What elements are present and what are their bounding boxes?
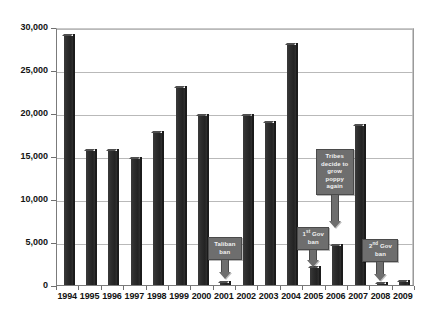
bar[interactable] xyxy=(176,88,185,285)
bar-slot xyxy=(393,282,415,285)
bar[interactable] xyxy=(287,45,296,285)
bar-face xyxy=(153,133,162,285)
x-axis-tick-mark xyxy=(190,286,191,290)
bar-face xyxy=(176,88,185,285)
bar-face xyxy=(332,246,341,285)
bar-slot xyxy=(57,36,79,285)
y-axis-tick-label: 30,000 xyxy=(0,22,48,32)
bar-slot xyxy=(169,88,191,285)
bar-side-shade xyxy=(73,34,75,285)
bar-top-shade xyxy=(196,114,207,116)
bar-side-shade xyxy=(162,131,164,285)
x-axis-tick-label: 2004 xyxy=(280,291,302,301)
x-axis-tick-mark xyxy=(325,286,326,290)
bar-side-shade xyxy=(117,149,119,285)
bar-slot xyxy=(191,116,213,285)
bar-face xyxy=(399,282,408,285)
x-axis-tick-mark xyxy=(369,286,370,290)
bar[interactable] xyxy=(153,133,162,285)
bar[interactable] xyxy=(64,36,73,285)
bar-slot xyxy=(102,151,124,285)
bar[interactable] xyxy=(220,283,229,285)
bar-slot xyxy=(236,116,258,285)
bar-slot xyxy=(303,268,325,285)
x-axis-tick-label: 1998 xyxy=(146,291,168,301)
bar-side-shade xyxy=(229,281,231,285)
bar-side-shade xyxy=(95,149,97,285)
bar-slot xyxy=(214,283,236,285)
bar-slot xyxy=(370,284,392,286)
bar-side-shade xyxy=(341,244,343,285)
bar-face xyxy=(355,126,364,285)
plot-area: TalibanbanTribesdecide togrowpoppyagain1… xyxy=(56,28,414,286)
x-axis-tick-mark xyxy=(213,286,214,290)
bar-face xyxy=(108,151,117,285)
bar-face xyxy=(86,151,95,285)
bar-side-shade xyxy=(207,114,209,285)
x-axis-tick-mark xyxy=(392,286,393,290)
bar-slot xyxy=(348,126,370,285)
x-axis-tick-label: 1997 xyxy=(123,291,145,301)
y-axis-tick-label: 15,000 xyxy=(0,151,48,161)
bar-side-shade xyxy=(364,124,366,285)
bar-side-shade xyxy=(185,86,187,285)
bar-side-shade xyxy=(386,282,388,286)
x-axis-tick-mark xyxy=(302,286,303,290)
bar-face xyxy=(310,268,319,285)
bar[interactable] xyxy=(265,123,274,285)
x-axis-tick-mark xyxy=(235,286,236,290)
x-axis-tick-mark xyxy=(414,286,415,290)
x-axis-tick-label: 2008 xyxy=(369,291,391,301)
bar-face xyxy=(198,116,207,285)
bar[interactable] xyxy=(86,151,95,285)
bar-top-shade xyxy=(308,266,319,268)
x-axis-tick-mark xyxy=(146,286,147,290)
bar-slot xyxy=(124,159,146,285)
x-axis: 1994199519961997199819992000200120022003… xyxy=(56,289,414,305)
x-axis-tick-label: 1999 xyxy=(168,291,190,301)
bar-top-shade xyxy=(174,86,185,88)
x-axis-tick-mark xyxy=(347,286,348,290)
bar[interactable] xyxy=(332,246,341,285)
bar[interactable] xyxy=(377,284,386,286)
x-axis-tick-label: 2009 xyxy=(392,291,414,301)
bar-slot xyxy=(79,151,101,285)
bar-side-shade xyxy=(140,157,142,285)
x-axis-tick-mark xyxy=(78,286,79,290)
x-axis-tick-label: 1994 xyxy=(56,291,78,301)
bar-side-shade xyxy=(252,114,254,285)
x-axis-tick-mark xyxy=(56,286,57,290)
y-axis-tick-label: 10,000 xyxy=(0,194,48,204)
bar[interactable] xyxy=(399,282,408,285)
bar[interactable] xyxy=(243,116,252,285)
bar-series xyxy=(57,29,413,285)
bar-chart: 30,00025,00020,00015,00010,0005,0000 Tal… xyxy=(0,0,424,310)
x-axis-tick-label: 2007 xyxy=(347,291,369,301)
y-axis-tick-label: 0 xyxy=(0,280,48,290)
bar-top-shade xyxy=(375,282,386,284)
bar-face xyxy=(220,283,229,285)
y-axis-tick-label: 20,000 xyxy=(0,108,48,118)
x-axis-tick-label: 2006 xyxy=(325,291,347,301)
y-axis-tick-label: 5,000 xyxy=(0,237,48,247)
x-axis-tick-label: 2003 xyxy=(257,291,279,301)
bar-top-shade xyxy=(84,149,95,151)
bar[interactable] xyxy=(108,151,117,285)
bar-top-shade xyxy=(353,124,364,126)
bar[interactable] xyxy=(198,116,207,285)
bar-face xyxy=(243,116,252,285)
x-axis-tick-label: 1996 xyxy=(101,291,123,301)
x-axis-tick-mark xyxy=(168,286,169,290)
y-axis-tick-label: 25,000 xyxy=(0,65,48,75)
x-axis-tick-label: 2002 xyxy=(235,291,257,301)
x-axis-tick-label: 1995 xyxy=(78,291,100,301)
bar[interactable] xyxy=(355,126,364,285)
x-axis-tick-label: 2000 xyxy=(190,291,212,301)
bar-face xyxy=(265,123,274,285)
bar[interactable] xyxy=(310,268,319,285)
x-axis-tick-mark xyxy=(280,286,281,290)
bar[interactable] xyxy=(131,159,140,285)
x-axis-tick-label: 2001 xyxy=(213,291,235,301)
bar-side-shade xyxy=(408,280,410,285)
bar-side-shade xyxy=(319,266,321,285)
